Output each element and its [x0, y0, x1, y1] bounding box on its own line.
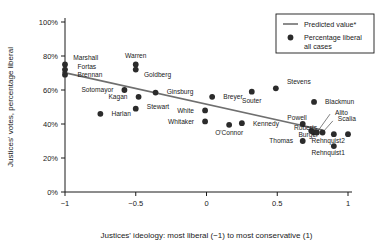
- legend-label-predicted: Predicted value*: [304, 20, 357, 29]
- x-tick-label: −1: [61, 199, 70, 208]
- data-point-label: Whitaker: [168, 118, 195, 125]
- data-point-label: Brennan: [77, 71, 102, 78]
- data-point-label: Fortas: [77, 63, 96, 70]
- x-tick-label: 1: [346, 199, 350, 208]
- x-tick-label: 0: [204, 199, 208, 208]
- data-point: [300, 138, 306, 144]
- data-point: [331, 143, 337, 149]
- data-point: [153, 90, 159, 96]
- y-tick-label: 60%: [43, 86, 58, 95]
- legend-dot-swatch: [288, 35, 294, 41]
- data-point-label: Warren: [125, 52, 147, 59]
- chart-canvas: −1−0.500.510%20%40%60%80%100%Justices' i…: [0, 0, 377, 248]
- data-point-label: Ginsburg: [167, 88, 194, 96]
- data-point: [331, 131, 337, 137]
- data-point: [133, 62, 139, 68]
- data-point: [314, 130, 320, 136]
- data-point: [345, 131, 351, 137]
- label-leader-line: [317, 114, 330, 132]
- data-point-label: Stevens: [287, 78, 312, 85]
- y-tick-label: 100%: [39, 18, 59, 27]
- data-point: [97, 111, 103, 117]
- data-point: [133, 67, 139, 73]
- data-point: [226, 122, 232, 128]
- data-point-label: Rehnquist2: [312, 137, 346, 145]
- data-point: [202, 119, 208, 125]
- data-point: [122, 87, 128, 93]
- data-point-label: Goldberg: [144, 71, 171, 79]
- data-point-label: Scalia: [338, 115, 356, 122]
- data-point: [209, 94, 215, 100]
- data-point-label: Souter: [242, 97, 262, 104]
- data-point-label: Kennedy: [253, 120, 280, 128]
- data-point-label: Kagan: [108, 93, 127, 101]
- x-axis-title: Justices' ideology: most liberal (−1) to…: [100, 231, 312, 240]
- data-point-label: Rehnquist1: [312, 149, 346, 157]
- y-tick-label: 80%: [43, 52, 58, 61]
- y-tick-label: 40%: [43, 120, 58, 129]
- data-point: [249, 89, 255, 95]
- x-tick-label: 0.5: [272, 199, 282, 208]
- data-point-label: O'Connor: [215, 129, 244, 136]
- y-tick-label: 20%: [43, 154, 58, 163]
- data-point: [239, 120, 245, 126]
- data-point: [320, 130, 326, 136]
- data-point: [202, 108, 208, 114]
- data-point-label: Powell: [287, 114, 307, 121]
- y-axis-title: Justices' votes, percentage liberal: [6, 47, 15, 167]
- data-point-label: White: [177, 107, 194, 114]
- legend-label-percentage-line2: all cases: [304, 42, 332, 51]
- legend-label-percentage: Percentage liberal: [304, 33, 362, 42]
- data-point: [273, 85, 279, 91]
- data-point: [62, 62, 68, 68]
- data-point: [62, 67, 68, 73]
- data-point-label: Harlan: [111, 110, 131, 117]
- scatter-chart: −1−0.500.510%20%40%60%80%100%Justices' i…: [0, 0, 377, 248]
- data-point: [133, 106, 139, 112]
- y-tick-label: 0%: [47, 188, 58, 197]
- x-tick-label: −0.5: [128, 199, 143, 208]
- data-point: [62, 72, 68, 78]
- data-point-label: Blackmun: [325, 98, 354, 105]
- data-point: [136, 94, 142, 100]
- data-point-label: Breyer: [223, 93, 243, 101]
- data-point-label: Marshall: [73, 54, 98, 61]
- data-point-label: Thomas: [269, 137, 294, 144]
- data-point-label: Stewart: [147, 103, 170, 110]
- data-point: [311, 99, 317, 105]
